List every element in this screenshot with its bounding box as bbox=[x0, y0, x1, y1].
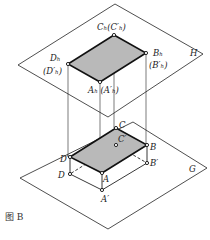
label-d: D bbox=[57, 170, 65, 180]
label-d-prime: D′ bbox=[59, 154, 69, 164]
label-bh: Bₕ bbox=[152, 48, 163, 58]
label-a: A bbox=[102, 174, 109, 184]
projection-diagram: H G Cₕ(C′ₕ) Bₕ (B′ₕ) Dₕ (D′ₕ) Aₕ (A′ₕ) C… bbox=[0, 0, 210, 240]
plane-g-label: G bbox=[189, 164, 196, 174]
upper-rectangle bbox=[68, 35, 146, 82]
plane-h-label: H bbox=[189, 48, 198, 58]
label-b-prime: B′ bbox=[149, 158, 158, 168]
figure-caption: 图 B bbox=[5, 212, 24, 222]
label-bh-prime: (B′ₕ) bbox=[149, 60, 168, 70]
label-c: C bbox=[119, 120, 126, 130]
label-a-prime: A′ bbox=[100, 194, 109, 204]
label-b: B bbox=[149, 142, 156, 152]
label-ah: Aₕ (A′ₕ) bbox=[87, 85, 119, 95]
label-ch: Cₕ(C′ₕ) bbox=[97, 22, 126, 32]
label-dh: Dₕ bbox=[49, 53, 61, 63]
label-dh-prime: (D′ₕ) bbox=[43, 66, 62, 76]
label-c-prime: C′ bbox=[118, 134, 127, 144]
